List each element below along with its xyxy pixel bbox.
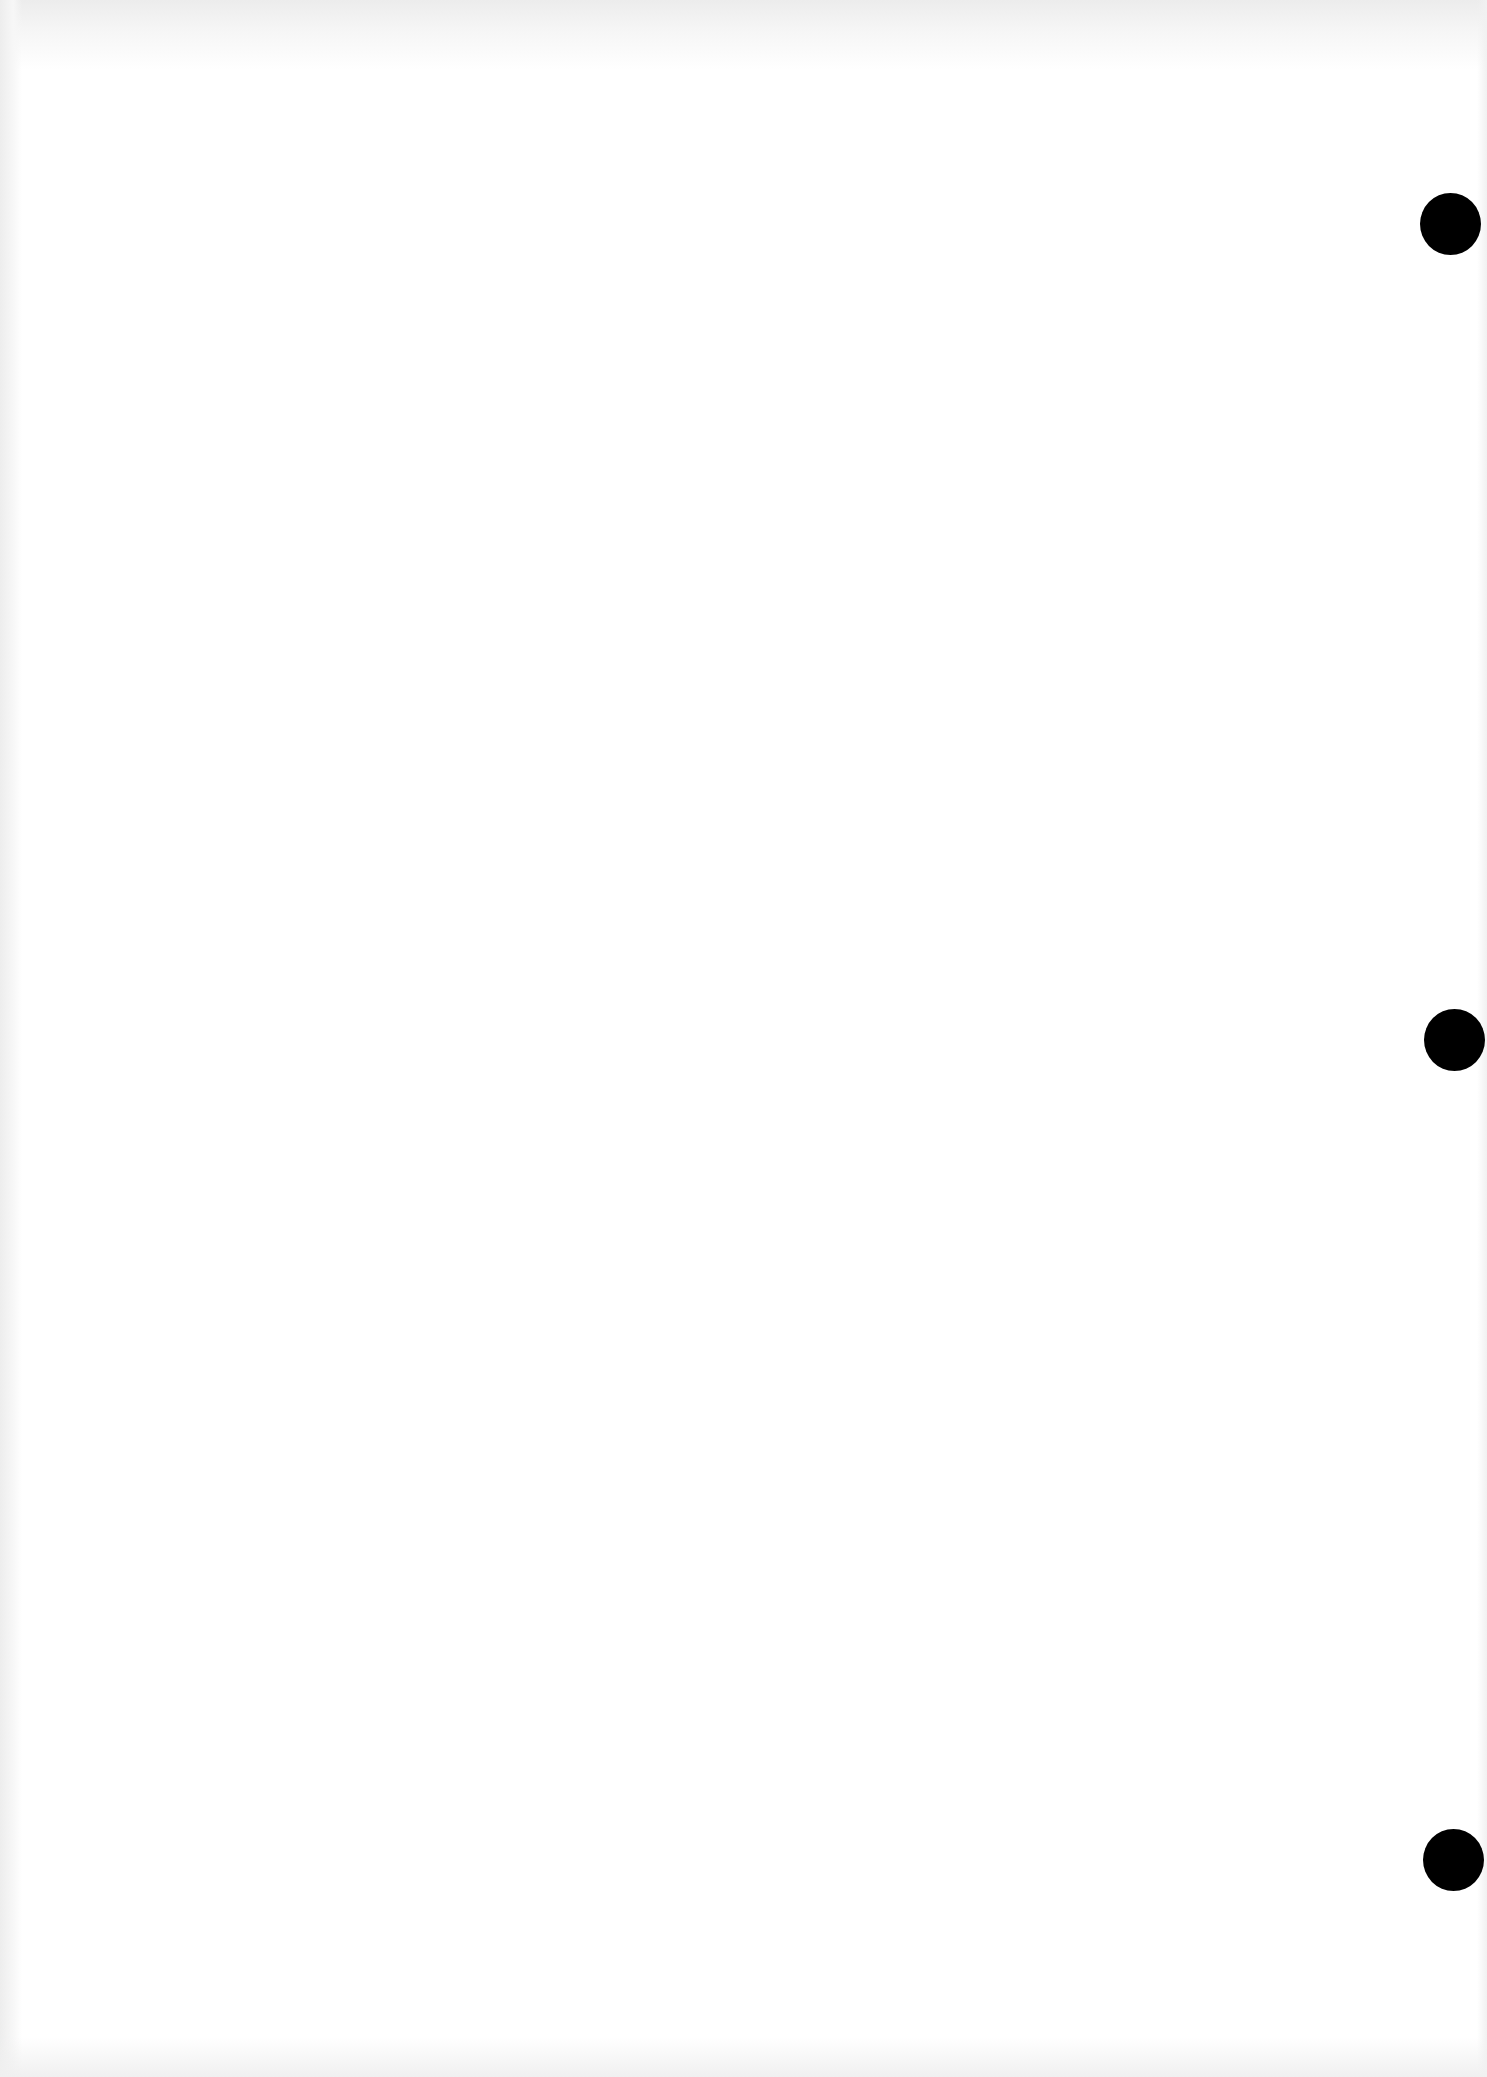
scan-shadow-bottom [0, 2037, 1487, 2077]
punch-hole-middle [1424, 1009, 1485, 1071]
punch-hole-bottom [1423, 1829, 1484, 1891]
blank-scanned-page [0, 0, 1487, 2077]
scan-shadow-left [0, 0, 22, 2077]
punch-hole-top [1420, 193, 1481, 255]
scan-shadow-top [0, 0, 1487, 70]
